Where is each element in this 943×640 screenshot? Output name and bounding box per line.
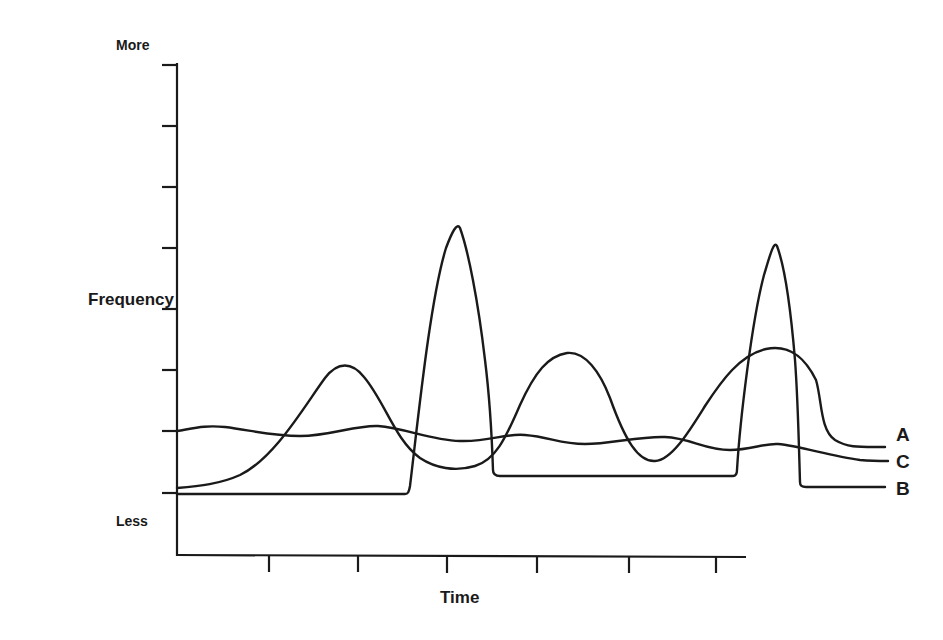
x-axis [176, 555, 746, 557]
series-c-label: C [896, 451, 910, 473]
series-b-line [177, 226, 885, 494]
series-a-line [177, 348, 885, 488]
x-axis-title: Time [440, 588, 479, 608]
chart-canvas [0, 0, 943, 640]
y-axis-bottom-label: Less [116, 513, 148, 529]
series-a-label: A [896, 424, 910, 446]
series-c-line [177, 426, 888, 461]
y-ticks [162, 65, 177, 493]
y-axis-title: Frequency [88, 290, 174, 310]
y-axis-top-label: More [116, 37, 149, 53]
series-b-label: B [896, 478, 910, 500]
x-ticks [269, 556, 716, 573]
